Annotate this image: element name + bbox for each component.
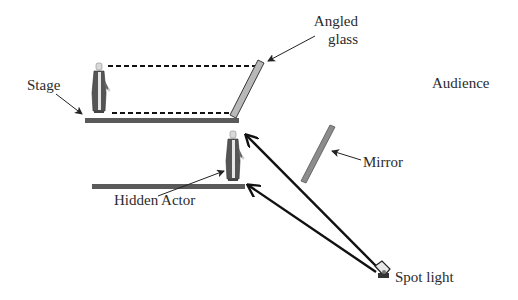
actor-figure-icon — [92, 63, 110, 113]
hidden-actor-label: Hidden Actor — [114, 192, 195, 209]
mirror-pointer-arrow — [332, 151, 361, 160]
stage-pointer-arrow — [56, 94, 82, 114]
light-beam-upper — [246, 135, 378, 268]
angled-glass-label-line1: Angled — [300, 13, 358, 30]
audience-label: Audience — [432, 75, 489, 92]
hidden-actor-figure-icon — [226, 131, 244, 181]
light-beam-lower — [248, 185, 376, 272]
angled-glass-label-line2: glass — [300, 31, 358, 48]
hidden-stage-platform — [92, 184, 245, 189]
stage-label: Stage — [27, 77, 60, 94]
mirror — [301, 125, 335, 183]
diagram-canvas — [0, 0, 518, 300]
peppers-ghost-diagram: Stage Angled glass Audience Mirror Hidde… — [0, 0, 518, 300]
angled-glass — [230, 60, 264, 118]
spotlight-icon — [375, 261, 390, 278]
spot-light-label: Spot light — [395, 269, 454, 286]
stage-platform — [85, 118, 239, 123]
mirror-label: Mirror — [363, 154, 403, 171]
